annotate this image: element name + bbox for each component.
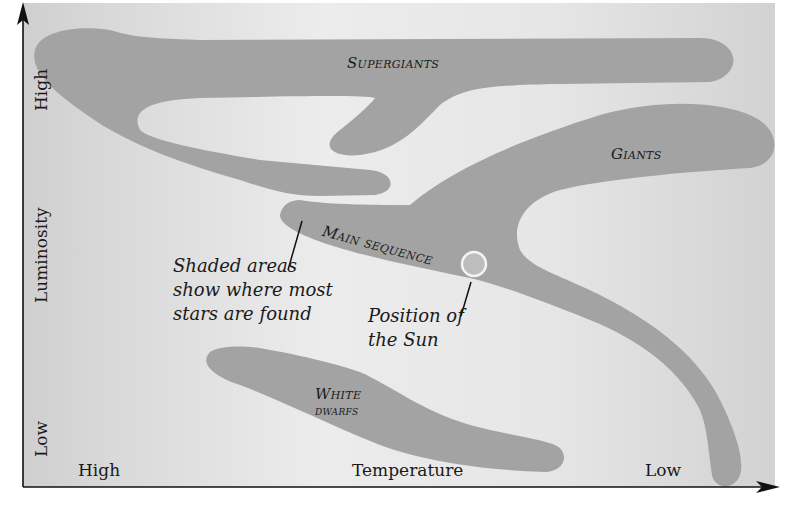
x-axis-high-label: High — [78, 460, 120, 480]
hr-diagram: High Luminosity Low High Temperature Low… — [0, 0, 786, 506]
y-axis-title: Luminosity — [31, 207, 51, 303]
shaded-areas-note-line3: stars are found — [173, 302, 312, 326]
shaded-areas-note-line1: Shaded areas — [173, 254, 297, 278]
supergiants-label: Supergiants — [347, 54, 439, 72]
y-axis-high-label: High — [31, 69, 51, 111]
white-dwarfs-label-line2: dwarfs — [315, 403, 359, 418]
sun-note-line1: Position of — [368, 304, 464, 328]
x-axis-low-label: Low — [645, 460, 681, 480]
white-dwarfs-label-line1: White — [315, 385, 361, 403]
y-axis-low-label: Low — [31, 421, 51, 457]
giants-label: Giants — [611, 145, 662, 163]
x-axis-title: Temperature — [352, 460, 463, 480]
shaded-areas-note-line2: show where most — [173, 278, 333, 302]
sun-marker — [462, 252, 486, 276]
sun-note-line2: the Sun — [368, 328, 439, 352]
